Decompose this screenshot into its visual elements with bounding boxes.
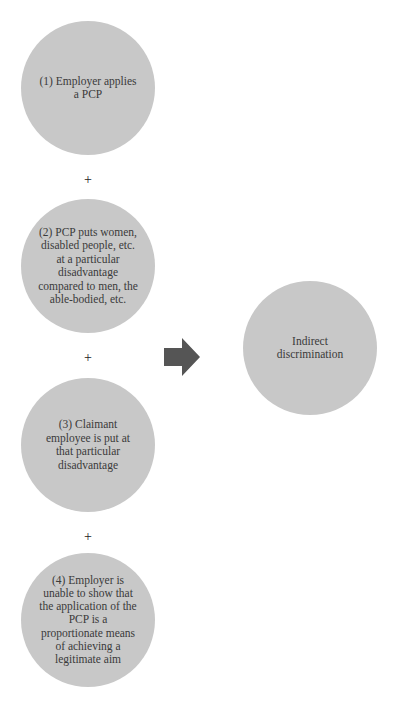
condition-2-circle: (2) PCP puts women, disabled people, etc… bbox=[21, 199, 155, 333]
condition-1-label: (1) Employer applies a PCP bbox=[37, 75, 139, 102]
condition-2-label: (2) PCP puts women, disabled people, etc… bbox=[37, 226, 139, 307]
plus-connector-2: + bbox=[78, 350, 98, 366]
plus-connector-1: + bbox=[78, 172, 98, 188]
condition-4-circle: (4) Employer is unable to show that the … bbox=[21, 553, 155, 687]
condition-3-circle: (3) Claimant employee is put at that par… bbox=[21, 378, 155, 512]
result-label: Indirect discrimination bbox=[259, 335, 361, 362]
right-arrow-icon bbox=[164, 338, 200, 376]
plus-connector-3: + bbox=[78, 529, 98, 545]
condition-3-label: (3) Claimant employee is put at that par… bbox=[37, 418, 139, 472]
condition-4-label: (4) Employer is unable to show that the … bbox=[37, 574, 139, 666]
condition-1-circle: (1) Employer applies a PCP bbox=[21, 21, 155, 155]
result-circle: Indirect discrimination bbox=[243, 281, 377, 415]
